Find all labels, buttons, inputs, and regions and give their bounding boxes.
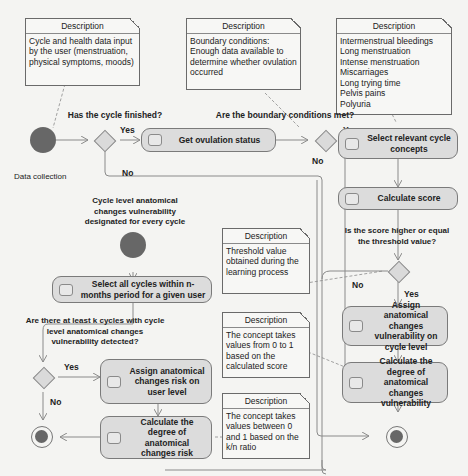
branch-no: No (352, 280, 363, 291)
activity-calculate-score[interactable]: Calculate score (338, 187, 458, 210)
note-data-input: Description Cycle and health data input … (25, 18, 140, 86)
note-header: Description (337, 19, 451, 34)
note-fold-icon (300, 393, 310, 403)
activity-icon (148, 134, 162, 146)
activity-get-ovulation-status[interactable]: Get ovulation status (141, 128, 276, 152)
note-boundary: Description Boundary conditions: Enough … (186, 18, 301, 90)
decision-label-score-threshold: Is the score higher or equal the thresho… (340, 226, 454, 247)
decision-label-cycle-finished: Has the cycle finished? (55, 110, 175, 121)
note-header: Description (187, 19, 300, 34)
note-score-range: Description The concept takes values fro… (222, 312, 310, 378)
activity-icon (349, 320, 363, 332)
note-text: The concept takes values between 0 and 1… (223, 409, 309, 455)
note-text: Boundary conditions: Enough data availab… (187, 34, 300, 80)
activity-assign-user-risk[interactable]: Assign anatomical changes risk on user l… (100, 359, 212, 404)
branch-yes: Yes (120, 125, 135, 136)
note-list-item: Pelvis pains (340, 88, 448, 99)
note-fold-icon (300, 228, 310, 238)
branch-no: No (50, 397, 61, 408)
note-fold-icon (130, 18, 140, 28)
note-fold-icon (442, 18, 452, 28)
note-header: Description (26, 19, 139, 34)
start-label-data-collection: Data collection (14, 172, 66, 181)
start-label-cycle-level: Cycle level anatomical changes vulnerabi… (80, 196, 190, 228)
end-node-user (31, 426, 53, 448)
note-concepts: Description Intermenstrual bleedings Lon… (336, 18, 452, 115)
note-list-item: Long menstruation (340, 46, 448, 57)
note-text: Cycle and health data input by the user … (26, 34, 139, 70)
activity-calc-degree-risk[interactable]: Calculate the degree of anatomical chang… (100, 416, 212, 459)
end-node-cycle (386, 426, 408, 448)
decision-label-boundary-met: Are the boundary conditions met? (205, 110, 365, 121)
activity-select-cycles[interactable]: Select all cycles within n-months period… (52, 276, 212, 303)
note-threshold: Description Threshold value obtained dur… (222, 228, 310, 294)
activity-icon (345, 193, 359, 205)
activity-icon (107, 376, 121, 388)
branch-yes: Yes (404, 289, 419, 300)
branch-no: No (312, 156, 323, 167)
note-text: The concept takes values from 0 to 1 bas… (223, 328, 309, 374)
note-header: Description (223, 394, 309, 409)
note-list-item: Intense menstruation (340, 57, 448, 68)
activity-select-concepts[interactable]: Select relevant cycle concepts (338, 128, 458, 159)
start-node-data-collection (30, 127, 56, 153)
note-kn-ratio: Description The concept takes values bet… (222, 393, 310, 459)
note-fold-icon (291, 18, 301, 28)
note-fold-icon (300, 312, 310, 322)
activity-calc-degree-vulnerability[interactable]: Calculate the degree of anatomical chang… (342, 362, 448, 403)
note-list-item: Polyuria (340, 99, 448, 110)
note-list-item: Miscarriages (340, 67, 448, 78)
activity-icon (59, 284, 73, 296)
note-header: Description (223, 313, 309, 328)
activity-icon (107, 432, 121, 444)
note-list-item: Intermenstrual bleedings (340, 36, 448, 47)
activity-assign-cycle-vulnerability[interactable]: Assign anatomical changes vulnerability … (342, 306, 448, 346)
activity-icon (349, 377, 363, 389)
branch-no: No (122, 168, 133, 179)
note-list: Intermenstrual bleedings Long menstruati… (337, 34, 451, 112)
branch-yes: Yes (64, 362, 79, 373)
start-node-cycle-level (120, 232, 146, 258)
decision-label-k-cycles: Are there at least k cycles with cycle l… (25, 316, 165, 348)
note-header: Description (223, 229, 309, 244)
note-text: Threshold value obtained during the lear… (223, 244, 309, 280)
note-list-item: Long trying time (340, 78, 448, 89)
activity-icon (345, 138, 359, 150)
